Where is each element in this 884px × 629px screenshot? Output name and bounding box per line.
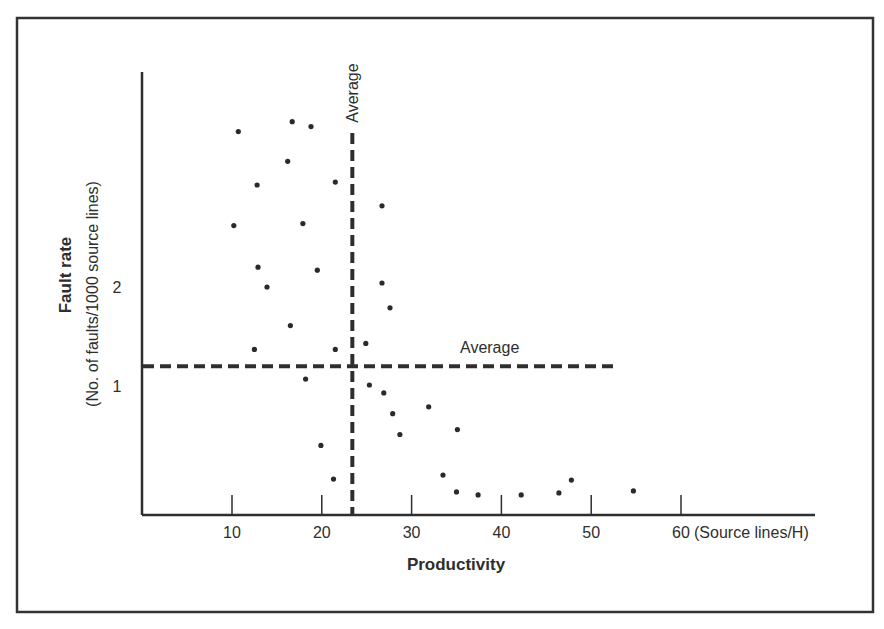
data-point xyxy=(308,124,313,129)
data-point xyxy=(318,443,323,448)
data-point xyxy=(440,473,445,478)
data-point xyxy=(379,203,384,208)
x-tick-label: 40 xyxy=(493,524,511,541)
figure-frame xyxy=(17,18,873,612)
data-point xyxy=(455,427,460,432)
data-point xyxy=(387,305,392,310)
data-point xyxy=(333,180,338,185)
data-point xyxy=(363,341,368,346)
plot-area: 102030405060 12 Average Average Producti… xyxy=(56,63,815,574)
data-point xyxy=(288,323,293,328)
x-axis-unit: (Source lines/H) xyxy=(694,524,809,541)
data-point xyxy=(331,477,336,482)
data-point xyxy=(300,221,305,226)
data-point xyxy=(333,347,338,352)
data-point xyxy=(290,119,295,124)
data-point xyxy=(426,404,431,409)
data-point xyxy=(454,489,459,494)
x-axis-title: Productivity xyxy=(407,555,506,574)
data-point xyxy=(631,488,636,493)
fault-rate-vs-productivity-chart: 102030405060 12 Average Average Producti… xyxy=(0,0,884,629)
data-point xyxy=(556,490,561,495)
data-point xyxy=(381,390,386,395)
data-point xyxy=(231,223,236,228)
data-point xyxy=(255,265,260,270)
data-point xyxy=(255,182,260,187)
data-point xyxy=(476,492,481,497)
x-tick-label: 30 xyxy=(403,524,421,541)
data-point xyxy=(303,377,308,382)
x-tick-label: 50 xyxy=(582,524,600,541)
y-ticks: 12 xyxy=(113,279,122,395)
data-point xyxy=(390,411,395,416)
y-axis-subtitle: (No. of faults/1000 source lines) xyxy=(84,181,101,407)
data-point xyxy=(367,382,372,387)
data-point xyxy=(569,478,574,483)
vertical-average-label: Average xyxy=(344,63,361,122)
x-tick-label: 10 xyxy=(223,524,241,541)
data-point xyxy=(264,284,269,289)
data-point xyxy=(236,129,241,134)
data-point xyxy=(519,492,524,497)
data-point xyxy=(379,280,384,285)
y-axis-title: Fault rate xyxy=(56,237,75,314)
data-points xyxy=(231,119,636,497)
x-tick-label: 60 xyxy=(672,524,690,541)
data-point xyxy=(315,268,320,273)
data-point xyxy=(252,347,257,352)
y-tick-label: 1 xyxy=(113,378,122,395)
data-point xyxy=(285,159,290,164)
horizontal-average-label: Average xyxy=(460,339,519,356)
x-ticks: 102030405060 xyxy=(223,495,690,541)
y-tick-label: 2 xyxy=(113,279,122,296)
x-tick-label: 20 xyxy=(313,524,331,541)
data-point xyxy=(397,432,402,437)
